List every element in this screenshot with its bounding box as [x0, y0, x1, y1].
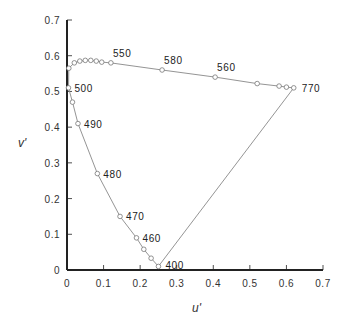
y-tick-label: 0.4 [45, 122, 60, 133]
y-axis-label: v' [18, 136, 27, 150]
locus-marker [255, 81, 260, 86]
locus-marker [277, 84, 282, 89]
locus-marker [291, 86, 296, 91]
locus-marker [142, 247, 147, 252]
wavelength-label: 400 [165, 260, 184, 271]
y-tick-label: 0 [54, 265, 60, 276]
locus-marker [156, 264, 161, 269]
x-tick-label: 0.2 [132, 278, 147, 289]
locus-marker [76, 121, 81, 126]
locus-marker [72, 61, 77, 66]
locus-marker [134, 236, 139, 241]
locus-marker [95, 171, 100, 176]
wavelength-label: 500 [74, 83, 93, 94]
wavelength-label: 460 [142, 233, 161, 244]
locus-marker [78, 59, 83, 64]
wavelength-label: 560 [217, 62, 236, 73]
locus-line [69, 60, 294, 266]
y-tick-label: 0.2 [45, 194, 60, 205]
x-tick-label: 0.3 [169, 278, 184, 289]
wavelength-labels: 400460470480490500550580560770 [74, 48, 320, 272]
locus-marker [70, 100, 75, 105]
locus-marker [88, 58, 93, 63]
chromaticity-chart: 00.10.20.30.40.50.60.700.10.20.30.40.50.… [0, 0, 348, 326]
locus-marker [160, 68, 165, 73]
spectral-locus [66, 58, 296, 269]
locus-marker [83, 58, 88, 63]
locus-marker [99, 60, 104, 65]
y-tick-label: 0.6 [45, 51, 60, 62]
x-tick-label: 0.4 [206, 278, 221, 289]
wavelength-label: 550 [113, 48, 132, 59]
x-tick-label: 0 [64, 278, 70, 289]
x-tick-label: 0.6 [279, 278, 294, 289]
locus-marker [109, 61, 114, 66]
axes: 00.10.20.30.40.50.60.700.10.20.30.40.50.… [45, 15, 331, 289]
locus-marker [67, 66, 72, 71]
wavelength-label: 470 [126, 211, 144, 222]
x-tick-label: 0.5 [242, 278, 257, 289]
locus-marker [213, 75, 218, 80]
locus-marker [118, 214, 123, 219]
x-tick-label: 0.7 [315, 278, 330, 289]
locus-marker [149, 256, 154, 261]
locus-marker [284, 85, 289, 90]
y-tick-label: 0.5 [45, 86, 60, 97]
wavelength-label: 770 [302, 83, 321, 94]
y-tick-label: 0.3 [45, 158, 60, 169]
x-axis-label: u' [192, 301, 202, 315]
wavelength-label: 490 [84, 119, 103, 130]
wavelength-label: 480 [103, 169, 122, 180]
wavelength-label: 580 [164, 55, 183, 66]
x-tick-label: 0.1 [96, 278, 111, 289]
y-tick-label: 0.7 [45, 15, 60, 26]
locus-marker [66, 86, 71, 91]
locus-marker [94, 59, 99, 64]
y-tick-label: 0.1 [45, 229, 60, 240]
